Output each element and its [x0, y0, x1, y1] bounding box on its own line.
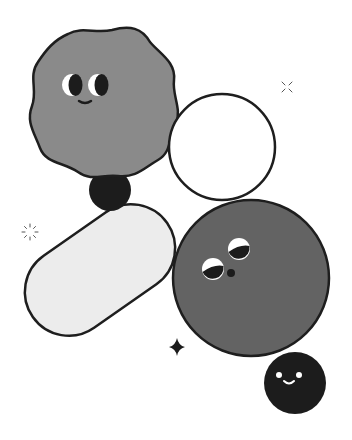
four-point-star-icon	[169, 338, 185, 356]
smiling-dark-ball	[264, 352, 326, 414]
blob-left-eye-icon	[62, 74, 83, 96]
big-grey-circle	[173, 200, 329, 356]
dark-ball-left-eye-icon	[276, 372, 282, 378]
outline-circle	[169, 94, 275, 200]
sparkle-x-icon	[282, 82, 292, 92]
illustration	[0, 0, 352, 440]
big-circle-right-eye-icon	[228, 238, 250, 260]
wavy-blob	[30, 28, 178, 177]
sparkle-burst-icon	[22, 224, 38, 240]
big-circle-left-eye-icon	[202, 258, 224, 280]
dark-ball-right-eye-icon	[296, 372, 302, 378]
blob-right-eye-icon	[88, 74, 109, 96]
pill-shape	[8, 187, 193, 353]
big-circle-nose-icon	[227, 269, 235, 277]
illustration-canvas	[0, 0, 352, 440]
